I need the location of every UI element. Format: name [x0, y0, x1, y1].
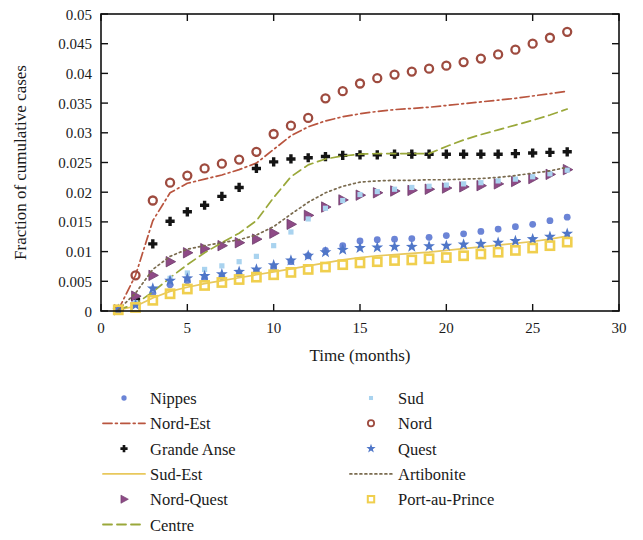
legend-marker-swatch: [121, 495, 128, 503]
y-tick-label: 0.02: [66, 185, 92, 201]
chart-legend: NippesNord-EstGrande AnseSud-EstNord-Que…: [103, 389, 494, 535]
series-nippes: [115, 214, 571, 313]
x-tick-label: 15: [353, 320, 368, 336]
legend-label: Sud: [398, 389, 424, 408]
legend-label: Sud-Est: [150, 465, 203, 484]
legend-label: Nord-Est: [150, 414, 211, 433]
legend-label: Nord: [398, 414, 433, 433]
legend-label: Centre: [150, 516, 194, 535]
y-tick-label: 0.03: [66, 125, 92, 141]
legend-item-nippes[interactable]: Nippes: [121, 389, 196, 408]
legend-item-centre[interactable]: Centre: [103, 516, 194, 535]
x-tick-label: 5: [184, 320, 192, 336]
legend-marker-swatch: [121, 395, 126, 400]
x-tick-label: 10: [266, 320, 281, 336]
series-quest: [112, 228, 573, 315]
legend-label: Quest: [398, 440, 437, 459]
legend-label: Port-au-Prince: [398, 490, 494, 509]
x-tick-label: 30: [612, 320, 627, 336]
y-tick-label: 0.005: [58, 274, 92, 290]
legend-label: Artibonite: [398, 465, 466, 484]
legend-item-grande-anse[interactable]: Grande Anse: [120, 440, 235, 459]
x-tick-label: 0: [97, 320, 105, 336]
legend-item-sud[interactable]: Sud: [369, 389, 424, 408]
legend-item-nord-quest[interactable]: Nord-Quest: [121, 490, 228, 509]
legend-label: Grande Anse: [150, 440, 236, 459]
y-tick-label: 0: [85, 304, 93, 320]
chart-figure: 05101520253000.0050.010.0150.020.0250.03…: [0, 0, 643, 540]
legend-marker-swatch: [368, 496, 374, 502]
plot-layer: [112, 28, 573, 315]
legend-item-artibonite[interactable]: Artibonite: [350, 465, 466, 484]
series-nord: [114, 28, 571, 314]
legend-item-port-au-prince[interactable]: Port-au-Prince: [368, 490, 494, 509]
x-tick-label: 25: [525, 320, 540, 336]
x-axis-title: Time (months): [310, 346, 411, 365]
cumulative-cases-chart: 05101520253000.0050.010.0150.020.0250.03…: [0, 0, 643, 540]
legend-item-sud-est[interactable]: Sud-Est: [103, 465, 203, 484]
y-tick-label: 0.05: [66, 7, 92, 23]
legend-label: Nippes: [150, 389, 197, 408]
y-tick-label: 0.045: [58, 36, 92, 52]
legend-item-nord-est[interactable]: Nord-Est: [103, 414, 211, 433]
legend-marker-swatch: [120, 445, 127, 452]
legend-item-quest[interactable]: Quest: [366, 440, 437, 459]
legend-marker-swatch: [368, 420, 374, 426]
y-tick-label: 0.035: [58, 96, 92, 112]
legend-item-nord[interactable]: Nord: [368, 414, 433, 433]
legend-label: Nord-Quest: [150, 490, 228, 509]
x-tick-label: 20: [439, 320, 454, 336]
y-tick-label: 0.025: [58, 155, 92, 171]
legend-marker-swatch: [366, 444, 375, 453]
y-axis-title: Fraction of cumulative cases: [11, 65, 30, 260]
y-tick-label: 0.04: [66, 66, 93, 82]
legend-marker-swatch: [369, 396, 373, 400]
y-tick-label: 0.01: [66, 244, 92, 260]
y-tick-label: 0.015: [58, 214, 92, 230]
